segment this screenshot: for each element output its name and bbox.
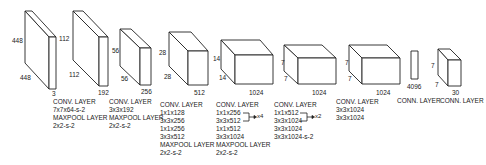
dim-label-conv1-width: 112 <box>69 71 79 78</box>
repeat-label-x4: x4 <box>257 113 263 119</box>
description-line: 2x2-s-2 <box>53 122 108 130</box>
description-line: CONV. LAYER <box>109 98 164 106</box>
description-line: 3x3x1024 <box>336 114 379 122</box>
description-line: 3x3x1024 <box>274 117 317 125</box>
description-line: 3x3x256 <box>160 117 215 125</box>
dim-label-fc2-depth: 30 <box>452 89 459 96</box>
layer-description-conv3: CONV. LAYER 1x1x128 3x3x256 1x1x256 3x3x… <box>160 101 215 157</box>
description-line: 3x3x192 <box>109 106 164 114</box>
description-line: 1x1x512 <box>274 109 317 117</box>
dim-label-conv1-depth: 192 <box>98 89 109 96</box>
description-line: 3x3x1024-s-2 <box>274 133 317 141</box>
description-line: 7x7x64-s-2 <box>53 106 108 114</box>
description-line: 2x2-s-2 <box>216 149 271 157</box>
layer-description-conv5: CONV. LAYER 1x1x512 3x3x1024 3x3x1024 3x… <box>274 101 317 141</box>
description-line: 2x2-s-2 <box>109 122 164 130</box>
dim-label-conv4-width: 14 <box>219 74 226 81</box>
description-line: MAXPOOL LAYER <box>160 141 215 149</box>
layer-description-fc1: CONN. LAYER <box>397 97 441 105</box>
description-line: MAXPOOL LAYER <box>53 114 108 122</box>
dim-label-conv5-height: 7 <box>281 59 285 66</box>
description-line: CONV. LAYER <box>336 98 379 106</box>
dim-label-fc2-height: 7 <box>431 62 435 69</box>
layer-description-conv2: CONV. LAYER 3x3x192 MAXPOOL LAYER 2x2-s-… <box>109 98 164 130</box>
layer-box-conv6 <box>349 45 400 84</box>
dim-label-fc1-depth: 4096 <box>407 83 421 90</box>
layer-description-conv1: CONV. LAYER 7x7x64-s-2 MAXPOOL LAYER 2x2… <box>53 98 108 130</box>
layer-description-conv6: CONV. LAYER 3x3x1024 3x3x1024 <box>336 98 379 122</box>
description-line: CONN. LAYER <box>397 97 441 105</box>
description-line: 3x3x512 <box>160 133 215 141</box>
dim-label-conv4-height: 14 <box>213 55 220 62</box>
dim-label-fc2-width: 7 <box>435 81 439 88</box>
description-line: 3x3x1024 <box>216 133 271 141</box>
dim-label-conv5-depth: 1024 <box>312 89 326 96</box>
dim-label-conv3-width: 28 <box>164 73 171 80</box>
dim-label-input-depth: 3 <box>52 90 56 97</box>
dim-label-conv3-depth: 512 <box>194 89 205 96</box>
dim-label-conv5-width: 7 <box>284 75 288 82</box>
dim-label-conv2-width: 56 <box>121 75 128 82</box>
dim-label-input-width: 448 <box>20 74 31 81</box>
description-line: 1x1x128 <box>160 109 215 117</box>
description-line: 2x2-s-2 <box>160 149 215 157</box>
repeat-label-x2: x2 <box>315 113 321 119</box>
dim-label-conv2-height: 56 <box>112 47 119 54</box>
dim-label-conv4-depth: 1024 <box>249 89 263 96</box>
description-line: 1x1x512 <box>216 125 271 133</box>
description-line: CONV. LAYER <box>274 101 317 109</box>
layer-description-conv4: CONV. LAYER 1x1x256 3x3x512 1x1x512 3x3x… <box>216 101 271 157</box>
description-line: MAXPOOL LAYER <box>109 114 164 122</box>
dim-label-conv1-height: 112 <box>59 35 69 42</box>
layer-box-conv5 <box>284 45 336 84</box>
description-line: 1x1x256 <box>160 125 215 133</box>
description-line: 3x3x1024 <box>274 125 317 133</box>
description-line: 3x3x1024 <box>336 106 379 114</box>
layer-box-conv3 <box>169 32 208 85</box>
dim-label-conv6-depth: 1024 <box>376 89 390 96</box>
description-line: CONV. LAYER <box>160 101 215 109</box>
dim-label-conv6-width: 7 <box>348 75 352 82</box>
description-line: MAXPOOL LAYER <box>216 141 271 149</box>
dim-label-conv3-height: 28 <box>159 49 166 56</box>
dim-label-conv6-height: 7 <box>345 59 349 66</box>
dim-label-conv2-depth: 256 <box>141 88 152 95</box>
layer-box-fc1 <box>411 51 418 79</box>
description-line: CONV. LAYER <box>53 98 108 106</box>
dim-label-input-height: 448 <box>12 37 23 44</box>
layer-box-conv4 <box>221 40 273 84</box>
layer-box-fc2 <box>438 49 461 86</box>
description-line: CONN. LAYER <box>440 97 484 105</box>
description-line: CONV. LAYER <box>216 101 271 109</box>
layer-description-fc2: CONN. LAYER <box>440 97 484 105</box>
